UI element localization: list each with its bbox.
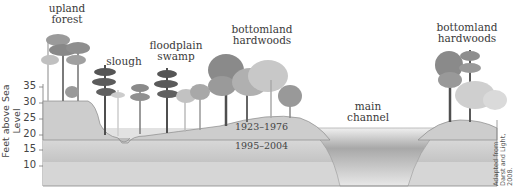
label-floodplain-swamp: floodplainswamp xyxy=(146,40,206,62)
label-slough: slough xyxy=(104,56,144,67)
bottomland-hardwoods-trees-right xyxy=(435,50,507,122)
label-bottomland-hardwoods-right: bottomlandhardwoods xyxy=(432,22,502,44)
label-bottomland-hardwoods-left: bottomlandhardwoods xyxy=(227,24,297,46)
label-upland-forest: uplandforest xyxy=(42,3,92,25)
label-main-channel: mainchannel xyxy=(338,101,398,123)
upland-forest-trees xyxy=(41,34,90,101)
y-tick-30: 30 xyxy=(12,96,36,107)
y-tick-10: 10 xyxy=(12,159,36,170)
y-tick-35: 35 xyxy=(12,80,36,91)
y-tick-15: 15 xyxy=(12,143,36,154)
y-tick-20: 20 xyxy=(12,128,36,139)
source-credit: Adapted from Darst and Light, 2008. xyxy=(493,122,514,186)
terrain-right xyxy=(418,120,497,140)
water-level-label-1923-1976: 1923–1976 xyxy=(235,121,288,132)
water-level-label-1995-2004: 1995–2004 xyxy=(235,140,288,151)
floodplain-swamp-trees xyxy=(130,68,210,134)
y-tick-25: 25 xyxy=(12,112,36,123)
bottomland-hardwoods-trees-left xyxy=(208,54,302,126)
